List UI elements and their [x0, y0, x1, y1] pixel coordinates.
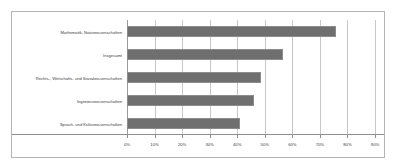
bar: [127, 72, 261, 83]
bar: [127, 49, 283, 60]
category-label: Ingenieurwissenschaften: [77, 98, 122, 103]
tick-mark: [347, 135, 348, 138]
tick-mark: [320, 135, 321, 138]
gridline: [375, 20, 376, 135]
bar: [127, 95, 254, 106]
tick-label: 90%: [371, 142, 379, 147]
tick-mark: [127, 135, 128, 138]
category-label: Mathematik, Naturwissenschaften: [61, 29, 122, 34]
tick-label: 30%: [205, 142, 213, 147]
tick-label: 60%: [288, 142, 296, 147]
category-label: Insgesamt: [103, 52, 122, 57]
category-label: Rechts-, Wirtschafts- und Sozialwissensc…: [36, 75, 122, 80]
tick-mark: [237, 135, 238, 138]
tick-mark: [265, 135, 266, 138]
tick-mark: [155, 135, 156, 138]
tick-label: 40%: [233, 142, 241, 147]
tick-label: 80%: [343, 142, 351, 147]
tick-label: 50%: [261, 142, 269, 147]
category-label: Sprach- und Kulturwissenschaften: [60, 121, 122, 126]
tick-label: 0%: [124, 142, 130, 147]
category-axis-labels: Mathematik, Naturwissenschaften Insgesam…: [12, 20, 125, 135]
bar: [127, 26, 336, 37]
tick-mark: [292, 135, 293, 138]
tick-label: 20%: [178, 142, 186, 147]
tick-label: 70%: [316, 142, 324, 147]
chart-frame: Mathematik, Naturwissenschaften Insgesam…: [11, 11, 385, 158]
tick-mark: [375, 135, 376, 138]
tick-mark: [182, 135, 183, 138]
bar: [127, 118, 240, 129]
tick-mark: [210, 135, 211, 138]
plot-area: [127, 20, 375, 135]
bar-series: [127, 20, 375, 135]
tick-label: 10%: [150, 142, 158, 147]
x-axis-line: [12, 134, 384, 135]
